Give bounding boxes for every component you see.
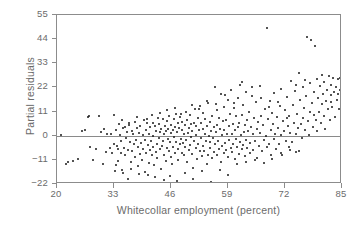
data-point bbox=[145, 129, 147, 131]
data-point bbox=[118, 123, 120, 125]
data-point bbox=[237, 97, 239, 99]
data-point bbox=[239, 141, 241, 143]
data-point bbox=[182, 142, 184, 144]
data-point bbox=[269, 100, 271, 102]
data-point bbox=[72, 160, 74, 162]
data-point bbox=[132, 133, 134, 135]
data-point bbox=[195, 125, 197, 127]
data-point bbox=[207, 102, 209, 104]
data-point bbox=[285, 140, 287, 142]
data-point bbox=[209, 121, 211, 123]
data-point bbox=[268, 143, 270, 145]
data-point bbox=[305, 95, 307, 97]
data-point bbox=[143, 119, 145, 121]
data-point bbox=[339, 77, 341, 79]
data-point bbox=[144, 171, 146, 173]
data-point bbox=[105, 151, 107, 153]
data-point bbox=[257, 121, 259, 123]
data-point bbox=[230, 147, 232, 149]
data-point bbox=[245, 139, 247, 141]
data-point bbox=[100, 131, 102, 133]
data-point bbox=[189, 144, 191, 146]
data-point bbox=[300, 123, 302, 125]
x-tick-label: 33 bbox=[93, 189, 133, 199]
data-point bbox=[195, 147, 197, 149]
data-point bbox=[314, 45, 316, 47]
data-point bbox=[138, 132, 140, 134]
data-point bbox=[233, 102, 235, 104]
data-point bbox=[126, 131, 128, 133]
x-tick-label: 72 bbox=[264, 189, 304, 199]
data-point bbox=[223, 152, 225, 154]
data-point bbox=[179, 116, 181, 118]
data-point bbox=[131, 150, 133, 152]
data-point bbox=[88, 115, 90, 117]
data-point bbox=[202, 145, 204, 147]
data-point bbox=[303, 107, 305, 109]
data-point bbox=[181, 121, 183, 123]
data-point bbox=[196, 158, 198, 160]
data-point bbox=[154, 176, 156, 178]
data-point bbox=[338, 108, 340, 110]
data-point bbox=[142, 148, 144, 150]
data-point bbox=[158, 123, 160, 125]
data-point bbox=[191, 153, 193, 155]
data-point bbox=[152, 122, 154, 124]
data-point bbox=[216, 154, 218, 156]
data-point bbox=[208, 135, 210, 137]
data-point bbox=[259, 85, 261, 87]
data-point bbox=[120, 140, 122, 142]
data-point bbox=[306, 36, 308, 38]
data-point bbox=[137, 165, 139, 167]
data-point bbox=[275, 148, 277, 150]
data-point bbox=[67, 161, 69, 163]
data-point bbox=[267, 118, 269, 120]
data-point bbox=[130, 161, 132, 163]
data-point bbox=[277, 101, 279, 103]
data-point bbox=[159, 148, 161, 150]
data-point bbox=[138, 173, 140, 175]
data-point bbox=[246, 147, 248, 149]
data-point bbox=[249, 152, 251, 154]
data-point bbox=[135, 139, 137, 141]
data-point bbox=[125, 137, 127, 139]
data-point bbox=[77, 158, 79, 160]
data-point bbox=[115, 164, 117, 166]
data-point bbox=[181, 129, 183, 131]
data-point bbox=[330, 101, 332, 103]
y-tick-label: 44 bbox=[4, 33, 48, 43]
data-point bbox=[124, 126, 126, 128]
data-point bbox=[241, 148, 243, 150]
data-point bbox=[225, 119, 227, 121]
data-point bbox=[241, 114, 243, 116]
data-point bbox=[216, 109, 218, 111]
data-point bbox=[140, 142, 142, 144]
data-point bbox=[221, 134, 223, 136]
data-point bbox=[155, 130, 157, 132]
data-point bbox=[166, 109, 168, 111]
data-point bbox=[231, 133, 233, 135]
data-point bbox=[152, 146, 154, 148]
data-point bbox=[127, 178, 129, 180]
data-point bbox=[262, 124, 264, 126]
data-point bbox=[130, 168, 132, 170]
data-point bbox=[204, 118, 206, 120]
data-point bbox=[158, 137, 160, 139]
data-point bbox=[201, 170, 203, 172]
data-point bbox=[324, 128, 326, 130]
data-point bbox=[229, 113, 231, 115]
data-point bbox=[278, 143, 280, 145]
data-point bbox=[191, 130, 193, 132]
data-point bbox=[177, 148, 179, 150]
data-point bbox=[316, 130, 318, 132]
data-point bbox=[81, 130, 83, 132]
y-tick-label: 22 bbox=[4, 81, 48, 91]
data-point bbox=[327, 108, 329, 110]
data-point bbox=[270, 154, 272, 156]
data-point bbox=[296, 113, 298, 115]
data-point bbox=[211, 157, 213, 159]
data-point bbox=[261, 150, 263, 152]
data-point bbox=[339, 89, 341, 91]
data-point bbox=[199, 150, 201, 152]
data-point bbox=[254, 159, 256, 161]
